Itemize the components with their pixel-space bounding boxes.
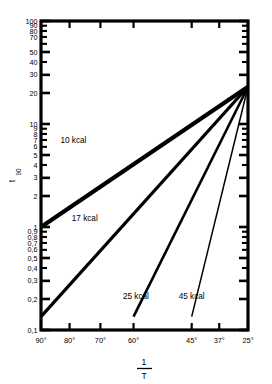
svg-text:90: 90 xyxy=(15,168,22,176)
x-tick-label: 60° xyxy=(128,336,139,345)
x-tick-label: 70° xyxy=(95,336,106,345)
y-tick-label: 2 xyxy=(34,192,38,201)
series-label-17kcal: 17 kcal xyxy=(72,214,98,223)
chart-canvas: 10090807050403020109876543210,90,80,70,6… xyxy=(0,0,272,384)
chart-figure: 10090807050403020109876543210,90,80,70,6… xyxy=(0,0,272,384)
y-tick-label: 3 xyxy=(34,173,38,182)
y-tick-label: 0,3 xyxy=(28,276,38,285)
series-label-10kcal: 10 kcal xyxy=(60,136,86,145)
x-tick-label: 37° xyxy=(214,336,225,345)
y-tick-label: 5 xyxy=(34,151,38,160)
series-label-45kcal: 45 kcal xyxy=(179,292,205,301)
y-tick-label: 0,1 xyxy=(28,326,38,335)
y-tick-label: 0,5 xyxy=(28,254,38,263)
x-tick-label: 45° xyxy=(186,336,197,345)
x-tick-label: 90° xyxy=(35,336,46,345)
y-tick-label: 4 xyxy=(34,161,38,170)
svg-text:1: 1 xyxy=(142,357,147,367)
x-tick-label: 80° xyxy=(64,336,75,345)
y-tick-label: 50 xyxy=(30,48,38,57)
series-label-25kcal: 25 kcal xyxy=(123,292,149,301)
x-tick-label: 25° xyxy=(242,336,253,345)
y-tick-label: 70 xyxy=(30,33,38,42)
y-tick-label: 20 xyxy=(30,89,38,98)
y-tick-label: 40 xyxy=(30,58,38,67)
y-tick-label: 0,2 xyxy=(28,295,38,304)
y-tick-label: 30 xyxy=(30,70,38,79)
svg-text:T: T xyxy=(141,371,147,381)
y-tick-label: 0,4 xyxy=(28,264,38,273)
